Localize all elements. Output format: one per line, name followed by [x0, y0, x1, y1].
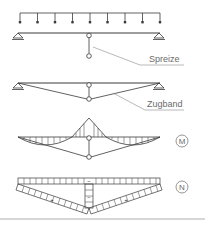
spreader-strut-icon — [87, 33, 92, 58]
structural-diagram: Spreize Zugband — [0, 0, 205, 233]
moment-label: M — [179, 137, 186, 146]
spreize-label: Spreize — [149, 54, 180, 64]
beam-compression-sign: − — [87, 178, 91, 184]
left-tie-tension-sign: + — [50, 197, 54, 203]
normal-force-label: N — [179, 183, 185, 192]
zugband-label: Zugband — [147, 99, 183, 109]
roller-support-icon — [153, 33, 165, 40]
normal-force-symbol: N — [176, 181, 188, 193]
right-tie-tension-sign: + — [124, 197, 128, 203]
strut-compression-sign: − — [87, 194, 91, 200]
distributed-load-icon — [19, 13, 161, 23]
moment-diagram — [18, 118, 160, 159]
pin-support-icon — [12, 33, 24, 40]
spreader-strut-icon — [87, 83, 92, 102]
moment-symbol: M — [176, 135, 188, 147]
